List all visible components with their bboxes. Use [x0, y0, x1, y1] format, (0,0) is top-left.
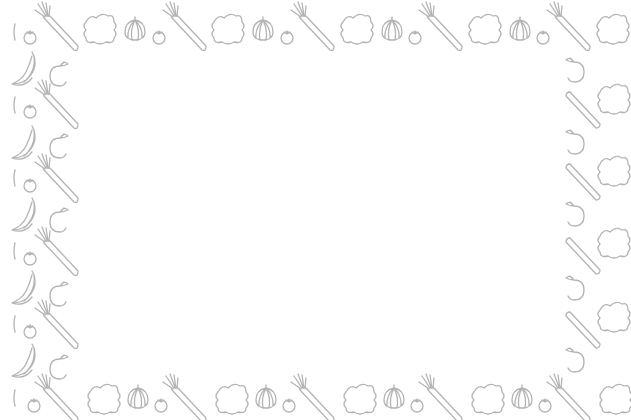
apple-icon: [50, 208, 68, 232]
apple-icon: [50, 282, 68, 306]
apple-icon: [566, 130, 584, 154]
lettuce-icon: [344, 384, 376, 414]
tomato-icon: [155, 399, 167, 412]
tomato-icon: [24, 252, 36, 265]
tomato-icon: [281, 31, 293, 44]
tomato-icon: [24, 105, 36, 118]
lettuce-icon: [84, 14, 116, 44]
banana-icon: [12, 126, 35, 159]
carrot-icon: [419, 2, 462, 51]
apple-icon: [50, 134, 68, 158]
tomato-icon: [411, 399, 423, 412]
apple-icon: [566, 276, 584, 300]
lettuce-icon: [341, 14, 373, 44]
tomato-icon: [539, 399, 551, 412]
apple-icon: [566, 348, 584, 372]
lettuce-icon: [598, 84, 630, 114]
apple-icon: [566, 58, 584, 82]
banana-icon: [12, 344, 35, 377]
onion-icon: [128, 385, 148, 408]
pepper-icon: [14, 316, 15, 332]
top-border-row: [14, 2, 629, 51]
carrot-icon: [566, 312, 600, 348]
apple-icon: [50, 62, 68, 86]
carrot-icon: [35, 300, 78, 349]
onion-icon: [382, 17, 402, 40]
onion-icon: [253, 17, 273, 40]
lettuce-icon: [88, 384, 120, 414]
lettuce-icon: [598, 228, 630, 258]
carrot-icon: [566, 92, 600, 128]
carrot-icon: [35, 154, 78, 203]
carrot-icon: [566, 164, 600, 200]
onion-icon: [384, 385, 404, 408]
carrot-icon: [163, 2, 206, 51]
onion-icon: [512, 385, 532, 408]
carrot-icon: [35, 80, 78, 129]
lettuce-icon: [216, 384, 248, 414]
tomato-icon: [24, 31, 36, 44]
carrot-icon: [35, 2, 78, 51]
pepper-icon: [14, 170, 15, 186]
carrot-icon: [547, 374, 590, 420]
lettuce-icon: [212, 14, 244, 44]
apple-icon: [50, 355, 68, 379]
tomato-icon: [409, 31, 421, 44]
tomato-icon: [153, 31, 165, 44]
lettuce-icon: [598, 302, 630, 332]
tomato-icon: [28, 399, 40, 412]
lettuce-icon: [600, 384, 631, 414]
right-border-column: [566, 58, 630, 372]
lettuce-icon: [597, 14, 629, 44]
lettuce-icon: [598, 156, 630, 186]
carrot-icon: [566, 238, 600, 274]
bottom-border-row: [14, 374, 631, 420]
carrot-icon: [419, 374, 462, 420]
tomato-icon: [283, 399, 295, 412]
pepper-icon: [14, 390, 15, 406]
banana-icon: [12, 271, 35, 304]
left-border-column: [12, 52, 78, 379]
carrot-icon: [35, 374, 78, 420]
banana-icon: [12, 52, 35, 85]
onion-icon: [125, 17, 145, 40]
carrot-icon: [547, 2, 590, 51]
apple-icon: [566, 202, 584, 226]
pepper-icon: [14, 24, 15, 40]
pepper-icon: [14, 97, 15, 113]
pepper-icon: [14, 243, 15, 259]
banana-icon: [12, 198, 35, 231]
vegetable-border-frame: [0, 0, 631, 420]
carrot-icon: [35, 227, 78, 276]
tomato-icon: [24, 179, 36, 192]
tomato-icon: [24, 325, 36, 338]
onion-icon: [510, 17, 530, 40]
lettuce-icon: [469, 14, 501, 44]
carrot-icon: [163, 374, 206, 420]
onion-icon: [256, 385, 276, 408]
lettuce-icon: [472, 384, 504, 414]
carrot-icon: [291, 2, 334, 51]
carrot-icon: [291, 374, 334, 420]
tomato-icon: [537, 31, 549, 44]
